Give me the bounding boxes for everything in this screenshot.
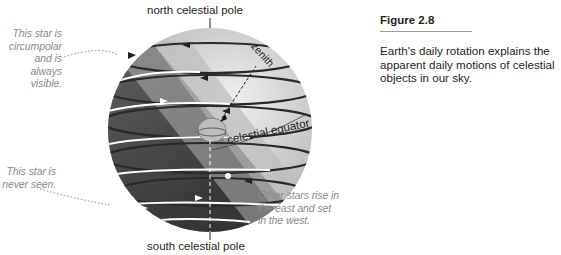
circumpolar-annotation: This star is circumpolar and is always v… (6, 27, 62, 90)
circumpolar-star-icon (117, 54, 123, 60)
rise-set-annotation: Other stars rise in the east and set in … (258, 189, 368, 227)
figure-caption-text: Earth's daily rotation explains the appa… (380, 44, 561, 85)
celestial-sphere-diagram: north celestial pole south celestial pol… (0, 0, 360, 255)
north-celestial-pole-label: north celestial pole (147, 4, 243, 16)
circumpolar-leader (64, 50, 118, 57)
never-seen-annotation: This star is never seen. (0, 165, 56, 190)
never-seen-star-icon (110, 203, 115, 208)
arrow-icon (128, 52, 136, 59)
rising-star-icon (225, 173, 231, 179)
figure-caption-header: Figure 2.8 (380, 14, 561, 32)
never-seen-leader (40, 189, 110, 205)
figure-title: Figure 2.8 (380, 14, 472, 32)
earth-icon (198, 118, 226, 142)
south-celestial-pole-label: south celestial pole (147, 240, 245, 252)
